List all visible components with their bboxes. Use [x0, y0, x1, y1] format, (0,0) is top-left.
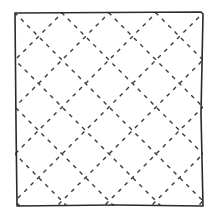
dashed-diagonal-line — [0, 0, 214, 218]
dashed-diagonal-line — [0, 0, 214, 218]
dashed-diagonal-line — [0, 0, 214, 218]
dashed-diagonal-line — [0, 0, 214, 218]
dashed-diagonal-line — [0, 0, 214, 218]
dashed-diagonal-line — [0, 0, 214, 218]
lattice-diagram — [0, 0, 214, 218]
dashed-diagonal-line — [0, 0, 214, 218]
dashed-diagonal-line — [0, 0, 214, 218]
square-frame — [15, 12, 203, 206]
dashed-diagonal-line — [0, 0, 214, 218]
diagonal-dashed-lines — [0, 0, 214, 218]
dashed-diagonal-line — [0, 0, 214, 218]
dashed-diagonal-line — [0, 0, 214, 218]
dashed-diagonal-line — [0, 0, 214, 218]
dashed-diagonal-line — [0, 0, 214, 218]
dashed-diagonal-line — [0, 0, 214, 218]
diagram-canvas: Square with diagonal dashed lattice — [0, 0, 214, 218]
dashed-diagonal-line — [0, 0, 214, 218]
dashed-diagonal-line — [0, 0, 214, 218]
dashed-diagonal-line — [0, 0, 214, 218]
dashed-diagonal-line — [0, 0, 214, 218]
dashed-diagonal-line — [0, 0, 214, 218]
